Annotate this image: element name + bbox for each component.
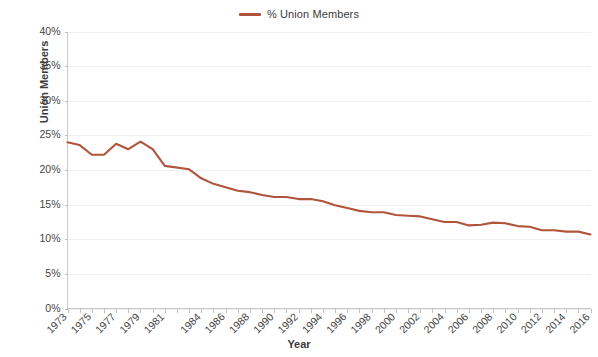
x-tick-label: 2012 — [518, 310, 543, 335]
x-tick-label: 1992 — [275, 310, 300, 335]
x-tick-label: 2010 — [494, 310, 519, 335]
union-membership-line-chart: % Union Members Union Members Year 0%5%1… — [0, 0, 598, 357]
x-tick-label: 1986 — [202, 310, 227, 335]
y-tick-label: 5% — [45, 267, 60, 279]
y-tick-label: 40% — [39, 25, 60, 37]
x-tick-label: 2004 — [421, 310, 446, 335]
y-tick-label: 25% — [39, 128, 60, 140]
x-tick-label: 2002 — [397, 310, 422, 335]
x-tick-label: 1988 — [226, 310, 251, 335]
x-tick-label: 1998 — [348, 310, 373, 335]
y-tick-label: 15% — [39, 198, 60, 210]
y-tick-label: 10% — [39, 232, 60, 244]
gridlines-group — [65, 33, 591, 310]
series-line — [68, 142, 591, 235]
x-tick-label: 2008 — [470, 310, 495, 335]
x-tick-label: 1994 — [299, 310, 324, 335]
x-tick-label: 1981 — [141, 310, 166, 335]
x-tick-label: 2006 — [445, 310, 470, 335]
x-tick-label: 1977 — [93, 310, 118, 335]
x-tick-label: 2000 — [372, 310, 397, 335]
x-tick-label: 1990 — [251, 310, 276, 335]
x-tick-label: 1984 — [178, 310, 203, 335]
y-tick-label: 20% — [39, 163, 60, 175]
x-tick-label: 2016 — [567, 310, 592, 335]
data-series-group — [68, 142, 591, 235]
x-tick-label: 2014 — [543, 310, 568, 335]
y-tick-label: 30% — [39, 94, 60, 106]
x-tick-labels-group: 1973197519771979198119841986198819901992… — [44, 310, 592, 335]
y-tick-label: 35% — [39, 59, 60, 71]
plot-area: 0%5%10%15%20%25%30%35%40% 19731975197719… — [0, 0, 598, 357]
x-tick-label: 1975 — [68, 310, 93, 335]
x-tick-label: 1996 — [324, 310, 349, 335]
y-tick-labels-group: 0%5%10%15%20%25%30%35%40% — [39, 25, 60, 314]
x-tick-label: 1979 — [117, 310, 142, 335]
